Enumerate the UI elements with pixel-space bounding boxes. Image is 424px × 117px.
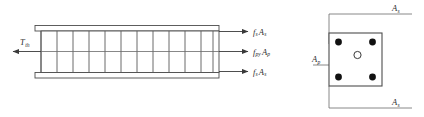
reinforcement-bar [335, 39, 342, 46]
resultant-force-middle: fpyAp [219, 47, 270, 58]
section-label-left: Ap [311, 54, 321, 65]
reinforcement-bar [335, 74, 342, 81]
applied-force-arrow: Tth [13, 37, 41, 52]
top-flange-rect [35, 26, 219, 32]
beam-elevation: Tth fsAs fpyAp fsAs [13, 26, 270, 79]
section-label-bottom: As [391, 97, 400, 108]
resultant-force-bottom: fsAs [219, 67, 266, 78]
beam-bottom-flange [35, 73, 219, 79]
engineering-figure: Tth fsAs fpyAp fsAs [0, 0, 424, 117]
bottom-flange-rect [35, 73, 219, 79]
prestressing-tendon [354, 51, 361, 58]
beam-cross-section: As As Ap [311, 3, 412, 108]
reinforcement-bar [369, 39, 376, 46]
section-label-top: As [391, 3, 400, 14]
beam-top-flange [35, 26, 219, 32]
reinforcement-bar [369, 74, 376, 81]
applied-force-label: Tth [20, 37, 30, 48]
figure-canvas: Tth fsAs fpyAp fsAs [0, 0, 424, 117]
resultant-force-bottom-label: fsAs [253, 67, 266, 78]
section-label-bottom-leader: As [329, 86, 412, 108]
resultant-force-middle-label: fpyAp [253, 47, 270, 58]
resultant-force-top-label: fsAs [253, 27, 266, 38]
resultant-force-top: fsAs [219, 27, 266, 38]
